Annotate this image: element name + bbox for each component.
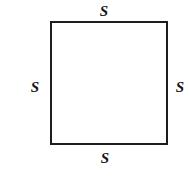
side-label-bottom: S bbox=[97, 151, 113, 166]
side-label-right: S bbox=[172, 80, 188, 95]
side-label-top: S bbox=[96, 4, 112, 19]
side-label-left: S bbox=[27, 80, 43, 95]
square-outline bbox=[50, 21, 168, 145]
figure-canvas: S S S S bbox=[0, 0, 193, 196]
